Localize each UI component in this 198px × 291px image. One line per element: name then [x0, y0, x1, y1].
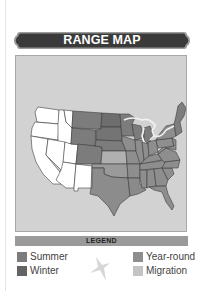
page-title: RANGE MAP [14, 31, 190, 50]
state-south-dakota [96, 127, 122, 141]
page-edge-rule [5, 0, 6, 291]
state-new-mexico [74, 164, 92, 191]
legend-label-summer: Summer [30, 251, 68, 263]
year-round-swatch-icon [133, 252, 143, 262]
state-arkansas [127, 164, 140, 178]
legend-item-year-round: Year-round [133, 251, 195, 263]
state-florida [149, 186, 174, 210]
summer-swatch-icon [17, 252, 27, 262]
legend-item-summer: Summer [17, 251, 68, 263]
range-map-banner: RANGE MAP [14, 31, 190, 50]
range-map-panel [15, 55, 187, 232]
legend-item-migration: Migration [133, 265, 187, 277]
migration-swatch-icon [133, 266, 143, 276]
bird-silhouette-icon [88, 255, 114, 283]
state-utah [63, 142, 78, 164]
state-wyoming [71, 128, 96, 146]
state-kansas [101, 151, 127, 164]
us-range-map [16, 56, 187, 232]
legend-label-winter: Winter [30, 265, 59, 277]
legend-label-year-round: Year-round [146, 251, 195, 263]
legend-item-winter: Winter [17, 265, 59, 277]
state-montana [72, 111, 102, 129]
state-washington [35, 107, 59, 124]
state-new-england [174, 102, 186, 136]
state-colorado [76, 144, 102, 164]
legend-label-migration: Migration [146, 265, 187, 277]
legend-title: LEGEND [15, 236, 188, 246]
state-north-dakota [101, 113, 121, 127]
winter-swatch-icon [17, 266, 27, 276]
